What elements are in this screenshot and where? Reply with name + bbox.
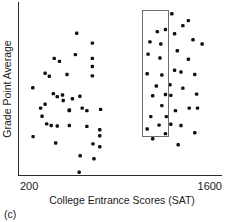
data-point [187,19,190,22]
data-point [43,72,46,75]
figure-caption: (c) [4,208,16,220]
data-point [65,73,68,76]
data-point [187,58,190,61]
x-tick-label-max: 1600 [198,180,222,192]
data-point [68,109,71,112]
data-point [45,122,48,125]
data-point [165,115,168,118]
data-point [77,171,80,174]
data-point [39,106,42,109]
data-point [75,32,78,35]
data-point [159,42,162,45]
data-point [173,32,176,35]
x-axis-title: College Entrance Scores (SAT) [49,194,195,206]
data-point [164,93,167,96]
data-point [61,93,64,96]
data-point [179,70,182,73]
data-point [151,94,154,97]
data-point [91,41,94,44]
data-point [169,94,172,97]
data-point [177,143,180,146]
data-point [151,137,154,140]
data-point [156,30,159,33]
data-point [98,134,101,137]
scatter-plot-figure: Grade Point Average 200 1600 College Ent… [0,0,228,222]
data-point [164,132,167,135]
data-point [81,106,84,109]
data-point [74,53,77,56]
data-points-layer [31,12,204,174]
data-point [193,73,196,76]
data-point [68,124,71,127]
data-point [43,103,46,106]
data-point [99,108,102,111]
data-point [195,92,198,95]
data-point [149,115,152,118]
data-point [160,73,163,76]
data-point [145,72,148,75]
data-point [191,38,194,41]
data-point [181,24,184,27]
data-point [40,115,43,118]
data-point [196,106,199,109]
data-point [85,125,88,128]
data-point [92,157,95,160]
data-point [157,123,160,126]
data-point [62,99,65,102]
data-point [155,84,158,87]
data-point [148,40,151,43]
data-point [56,124,59,127]
data-point [49,124,52,127]
data-point [78,154,81,157]
data-point [179,124,182,127]
data-point [91,65,94,68]
data-point [31,86,34,89]
data-point [54,141,57,144]
data-point [170,12,173,15]
x-tick-label-min: 200 [20,180,38,192]
data-point [188,106,191,109]
data-point [71,97,74,100]
data-point [78,95,81,98]
data-point [176,49,179,52]
data-point [164,28,167,31]
data-point [91,57,94,60]
y-axis-title: Grade Point Average [1,40,13,137]
data-point [158,56,161,59]
data-point [98,128,101,131]
data-point [169,123,172,126]
data-point [58,60,61,63]
data-point [48,75,51,78]
data-point [173,69,176,72]
data-point [52,92,55,95]
data-point [200,42,203,45]
data-point [31,135,34,138]
data-point [53,57,56,60]
data-point [160,104,163,107]
data-point [85,109,88,112]
data-point [145,127,148,130]
data-point [56,95,59,98]
data-point [91,142,94,145]
data-point [98,145,101,148]
data-point [146,52,149,55]
data-point [181,86,184,89]
data-point [174,109,177,112]
data-point [91,74,94,77]
chart-canvas: Grade Point Average 200 1600 College Ent… [0,0,228,222]
data-point [193,131,196,134]
